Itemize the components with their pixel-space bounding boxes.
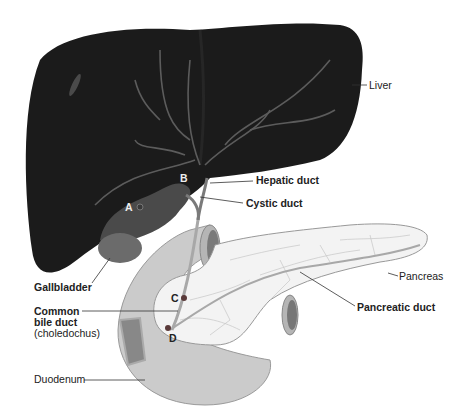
point-b: B	[180, 173, 188, 184]
label-pancreatic-duct: Pancreatic duct	[357, 302, 435, 313]
label-duodenum: Duodenum	[34, 374, 85, 385]
point-c: C	[171, 293, 179, 304]
label-hepatic-duct: Hepatic duct	[256, 175, 319, 186]
label-pancreas: Pancreas	[399, 271, 443, 282]
label-cystic-duct: Cystic duct	[246, 198, 303, 209]
label-common-bile-duct-line3: (choledochus)	[34, 328, 100, 339]
label-gallbladder: Gallbladder	[34, 282, 92, 293]
point-a: A	[125, 202, 133, 213]
point-d: D	[169, 333, 177, 344]
label-liver: Liver	[369, 80, 392, 91]
anatomy-illustration	[0, 0, 457, 413]
